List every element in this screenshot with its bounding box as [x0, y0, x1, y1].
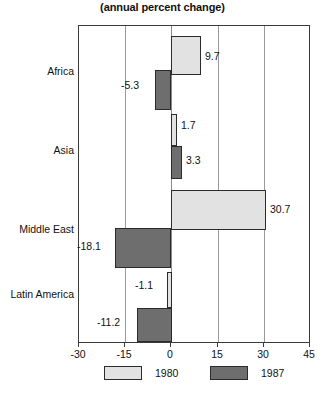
tick-mark-45 — [309, 343, 310, 347]
category-label-latin-america: Latin America — [0, 288, 74, 300]
tick-label-30: 30 — [257, 348, 269, 360]
x-axis: -30 -15 0 15 30 45 — [78, 343, 310, 363]
category-label-africa: Africa — [0, 65, 74, 77]
bar-value-middle-east-1987: -18.1 — [77, 240, 101, 252]
tick-label-minus30: -30 — [70, 348, 85, 360]
category-axis-labels: Africa Asia Middle East Latin America — [0, 25, 74, 343]
bar-value-latin-america-1987: -11.2 — [97, 316, 120, 328]
legend-label-1980: 1980 — [155, 367, 178, 379]
legend-item-1987[interactable]: 1987 — [210, 366, 284, 380]
bar-middle-east-1987[interactable] — [115, 228, 171, 268]
gridline-30 — [264, 26, 265, 342]
bar-value-latin-america-1980: -1.1 — [135, 279, 153, 291]
legend-label-1987: 1987 — [261, 367, 284, 379]
tick-mark-minus15 — [124, 343, 125, 347]
bar-asia-1987[interactable] — [171, 146, 182, 179]
category-label-middle-east: Middle East — [0, 223, 74, 235]
plot-area: 9.7 -5.3 1.7 3.3 30.7 -18.1 -1.1 -11.2 — [78, 25, 310, 343]
tick-mark-15 — [217, 343, 218, 347]
chart-legend: 1980 1987 — [78, 366, 310, 388]
bar-asia-1980[interactable] — [171, 114, 177, 146]
tick-label-minus15: -15 — [116, 348, 131, 360]
bar-africa-1980[interactable] — [171, 36, 201, 75]
gridline-minus15 — [125, 26, 126, 342]
tick-label-15: 15 — [211, 348, 223, 360]
bar-middle-east-1980[interactable] — [171, 190, 266, 230]
legend-swatch-1980-icon — [104, 366, 142, 380]
chart-title: (annual percent change) — [0, 1, 325, 13]
bar-value-africa-1987: -5.3 — [121, 79, 139, 91]
legend-swatch-1987-icon — [210, 366, 248, 380]
bar-latin-america-1987[interactable] — [137, 308, 172, 342]
tick-mark-minus30 — [78, 343, 79, 347]
category-label-asia: Asia — [0, 144, 74, 156]
legend-item-1980[interactable]: 1980 — [104, 366, 178, 380]
bar-latin-america-1980[interactable] — [167, 272, 172, 308]
tick-mark-30 — [263, 343, 264, 347]
tick-label-zero: 0 — [167, 348, 173, 360]
tick-label-45: 45 — [303, 348, 315, 360]
bar-africa-1987[interactable] — [155, 70, 171, 110]
bar-value-africa-1980: 9.7 — [205, 50, 220, 62]
bar-value-asia-1980: 1.7 — [181, 119, 196, 131]
bar-value-asia-1987: 3.3 — [186, 154, 201, 166]
gridline-15 — [218, 26, 219, 342]
bar-value-middle-east-1980: 30.7 — [270, 203, 290, 215]
tick-mark-zero — [170, 343, 171, 347]
